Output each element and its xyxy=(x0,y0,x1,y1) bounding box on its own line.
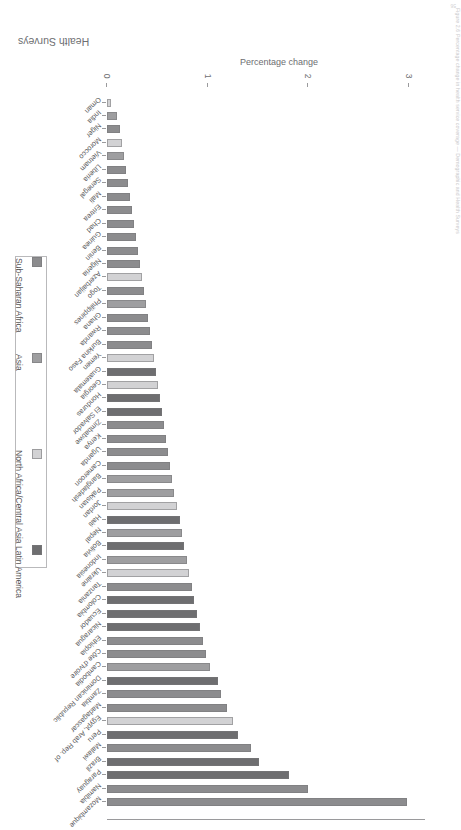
bar xyxy=(107,408,162,416)
category-tick xyxy=(102,451,106,452)
legend-swatch xyxy=(32,257,42,267)
category-tick xyxy=(102,572,106,573)
bar xyxy=(107,690,221,698)
category-tick xyxy=(102,398,106,399)
legend-label: Asia xyxy=(14,354,24,371)
category-tick xyxy=(102,155,106,156)
category-tick xyxy=(102,330,106,331)
category-tick xyxy=(102,424,106,425)
axis-tick xyxy=(106,83,107,87)
bar xyxy=(107,583,192,591)
legend-swatch xyxy=(32,353,42,363)
caption-health-surveys: Health Surveys xyxy=(18,36,89,48)
category-tick xyxy=(102,545,106,546)
bar xyxy=(107,341,152,349)
category-tick xyxy=(102,276,106,277)
bar xyxy=(107,610,197,618)
bar xyxy=(107,300,146,308)
bar xyxy=(107,489,174,497)
bar xyxy=(107,435,166,443)
axis-tick xyxy=(207,83,208,87)
category-tick xyxy=(102,747,106,748)
category-tick xyxy=(102,599,106,600)
axis-title: Percentage change xyxy=(240,57,318,67)
bar xyxy=(107,556,187,564)
bar xyxy=(107,206,132,214)
value-axis-line xyxy=(107,819,425,820)
legend-label: North Africa/Central Asia xyxy=(14,450,24,544)
bar xyxy=(107,233,136,241)
bar xyxy=(107,462,170,470)
bar xyxy=(107,126,120,134)
bar xyxy=(107,731,238,739)
category-tick xyxy=(102,129,106,130)
category-tick xyxy=(102,667,106,668)
legend-swatch xyxy=(32,545,42,555)
category-tick xyxy=(102,303,106,304)
bar xyxy=(107,623,200,631)
bar xyxy=(107,637,203,645)
axis-tick-label: 0 xyxy=(102,70,112,83)
bar xyxy=(107,260,140,268)
axis-tick-label: 1 xyxy=(202,70,212,83)
bar xyxy=(107,99,111,107)
bar xyxy=(107,193,130,201)
bar xyxy=(107,368,156,376)
bar xyxy=(107,798,407,806)
legend-label: Latin America xyxy=(14,546,24,598)
bar xyxy=(107,677,218,685)
category-tick xyxy=(102,209,106,210)
bar xyxy=(107,220,134,228)
bar xyxy=(107,502,177,510)
legend-label: Sub-Saharan Africa xyxy=(14,258,24,333)
bar xyxy=(107,704,227,712)
bar xyxy=(107,287,144,295)
axis-tick xyxy=(408,83,409,87)
bar xyxy=(107,381,158,389)
axis-tick-label: 2 xyxy=(303,70,313,83)
bar xyxy=(107,395,160,403)
bar xyxy=(107,664,210,672)
category-tick xyxy=(102,693,106,694)
bar xyxy=(107,247,138,255)
legend[interactable]: Sub-Saharan AfricaAsiaNorth Africa/Centr… xyxy=(15,256,47,568)
bar xyxy=(107,327,150,335)
bar xyxy=(107,758,259,766)
bar xyxy=(107,314,148,322)
bar xyxy=(107,569,189,577)
category-tick xyxy=(102,478,106,479)
bar xyxy=(107,112,117,120)
bar xyxy=(107,542,184,550)
legend-items: Sub-Saharan AfricaAsiaNorth Africa/Centr… xyxy=(16,257,46,567)
axis-tick-label: 3 xyxy=(404,70,414,83)
category-tick xyxy=(102,720,106,721)
bar xyxy=(107,448,168,456)
bar xyxy=(107,421,164,429)
bar xyxy=(107,354,154,362)
category-tick xyxy=(102,357,106,358)
bar xyxy=(107,596,194,604)
bar xyxy=(107,273,142,281)
bar xyxy=(107,529,182,537)
legend-swatch xyxy=(32,449,42,459)
bar xyxy=(107,152,124,160)
page-number: 56 xyxy=(450,3,456,9)
category-tick xyxy=(102,182,106,183)
bar xyxy=(107,717,233,725)
bar xyxy=(107,650,206,658)
bar xyxy=(107,475,172,483)
category-tick xyxy=(102,626,106,627)
bar xyxy=(107,744,251,752)
bar xyxy=(107,139,122,147)
bar xyxy=(107,785,308,793)
bar xyxy=(107,166,126,174)
bar xyxy=(107,516,180,524)
axis-tick xyxy=(307,83,308,87)
running-caption: Figure 2.6 Percentage change in health s… xyxy=(455,8,461,234)
bar xyxy=(107,771,289,779)
bar xyxy=(107,179,128,187)
